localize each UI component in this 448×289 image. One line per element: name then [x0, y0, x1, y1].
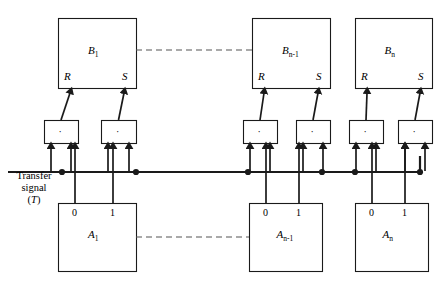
label-an-one: 1 — [402, 208, 407, 218]
and-gate-symbol-g4: · — [311, 127, 314, 137]
bus-junction-4 — [319, 169, 325, 175]
bus-junction-3 — [245, 169, 251, 175]
paren-close: ) — [37, 194, 41, 205]
bus-junction-5 — [352, 169, 358, 175]
wire-gate-to-bn-r — [366, 93, 367, 120]
bus-junction-2 — [133, 169, 139, 175]
wire-gate-to-bn-s — [415, 93, 420, 120]
wire-gate-to-bn1-r — [260, 93, 264, 120]
transfer-signal-line2: signal — [6, 182, 62, 194]
label-b1-r: R — [64, 71, 71, 82]
wire-gate-to-b1-s — [119, 93, 125, 120]
and-gate-symbol-g3: · — [258, 127, 261, 137]
label-bn1: Bn-1 — [282, 45, 299, 59]
label-an1-one: 1 — [296, 208, 301, 218]
label-b1-s: S — [122, 71, 128, 82]
and-gate-symbol-g5: · — [364, 127, 367, 137]
label-bn-r: R — [361, 71, 368, 82]
transfer-signal-label: Transfer signal (T) — [6, 170, 62, 206]
label-a1-zero: 0 — [72, 208, 77, 218]
and-gate-symbol-g6: · — [413, 127, 416, 137]
label-bn: Bn — [385, 45, 395, 59]
label-bn1-s: S — [316, 71, 322, 82]
label-a1: A1 — [88, 229, 98, 243]
wire-gate-to-b1-r — [61, 93, 70, 120]
label-an-zero: 0 — [369, 208, 374, 218]
transfer-signal-line3: (T) — [6, 194, 62, 206]
label-b1: B1 — [88, 45, 98, 59]
bus-junction-6 — [417, 169, 423, 175]
label-an1: An-1 — [277, 229, 294, 243]
diagram-vector-layer — [0, 0, 448, 289]
label-bn-s: S — [418, 71, 424, 82]
label-an: An — [383, 229, 393, 243]
label-a1-one: 1 — [110, 208, 115, 218]
label-an1-zero: 0 — [263, 208, 268, 218]
diagram-canvas: Transfer signal (T) B1RSBn-1RSBnRSA101An… — [0, 0, 448, 289]
label-bn1-r: R — [258, 71, 265, 82]
wire-gate-to-bn1-s — [313, 93, 318, 120]
transfer-signal-line1: Transfer — [6, 170, 62, 182]
and-gate-symbol-g2: · — [116, 127, 119, 137]
and-gate-symbol-g1: · — [59, 127, 62, 137]
